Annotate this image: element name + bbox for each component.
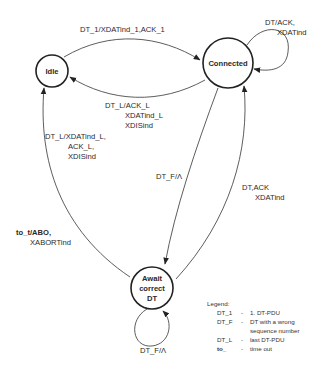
edge-await-self-loop (135, 309, 169, 346)
label-await-timeout-line2: XABORTind (30, 238, 71, 247)
legend-value-dtl: last DT-PDU (250, 336, 284, 343)
label-connected-to-await: DT_F/Λ (156, 172, 183, 181)
legend-sep-dtl: - (241, 336, 243, 343)
legend-sep-to: - (241, 345, 243, 352)
state-await-label-line3: DT (147, 294, 157, 303)
label-await-to-idle-line3: XDISind (68, 152, 96, 161)
label-connected-self-line1: DT/ACK, (265, 18, 295, 27)
label-await-to-idle-line2: ACK_L, (68, 142, 94, 151)
state-diagram: Idle Connected Await correct DT DT_1/XDA… (0, 0, 325, 373)
state-connected-label: Connected (208, 59, 248, 68)
state-await-label-line1: Await (142, 274, 163, 283)
state-await-correct-dt: Await correct DT (131, 267, 173, 309)
legend-sep-dtf: - (241, 318, 243, 325)
state-idle: Idle (36, 55, 68, 87)
edge-idle-to-connected (64, 39, 200, 60)
label-connected-to-idle-line3: XDISind (125, 121, 153, 130)
state-connected: Connected (203, 38, 253, 88)
legend-key-dt1: DT_1 (217, 309, 233, 316)
legend-value-dtf-line1: DT with a wrong (250, 318, 295, 325)
legend-key-to: to_ (217, 345, 227, 352)
label-await-self: DT_F/Λ (140, 346, 167, 355)
edge-connected-to-idle (70, 77, 205, 97)
edge-await-to-idle (43, 88, 130, 277)
legend-value-dt1: 1. DT-PDU (250, 309, 280, 316)
label-idle-to-connected: DT_1/XDATind_1,ACK_1 (80, 25, 165, 34)
legend-value-dtf-line2: sequence number (250, 327, 300, 334)
label-await-to-connected-line2: XDATind (255, 193, 285, 202)
label-connected-to-idle-line1: DT_L/ACK_L (105, 101, 150, 110)
legend-key-dtl: DT_L (217, 336, 233, 343)
label-connected-to-idle-line2: XDATind_L (125, 111, 163, 120)
state-await-label-line2: correct (139, 284, 165, 293)
label-await-to-idle-line1: DT_L/XDATind_L, (45, 132, 106, 141)
state-idle-label: Idle (45, 67, 58, 76)
legend-title: Legend: (207, 300, 230, 307)
legend-sep-dt1: - (241, 309, 243, 316)
legend: Legend: DT_1 - 1. DT-PDU DT_F - DT with … (207, 300, 300, 352)
legend-value-to: time out (250, 345, 272, 352)
label-await-timeout-line1: to_t/ABO, (16, 228, 51, 237)
edge-await-to-connected (176, 86, 245, 279)
label-connected-self-line2: XDATind (277, 28, 307, 37)
legend-key-dtf: DT_F (217, 318, 233, 325)
label-await-to-connected-line1: DT,ACK (242, 183, 269, 192)
